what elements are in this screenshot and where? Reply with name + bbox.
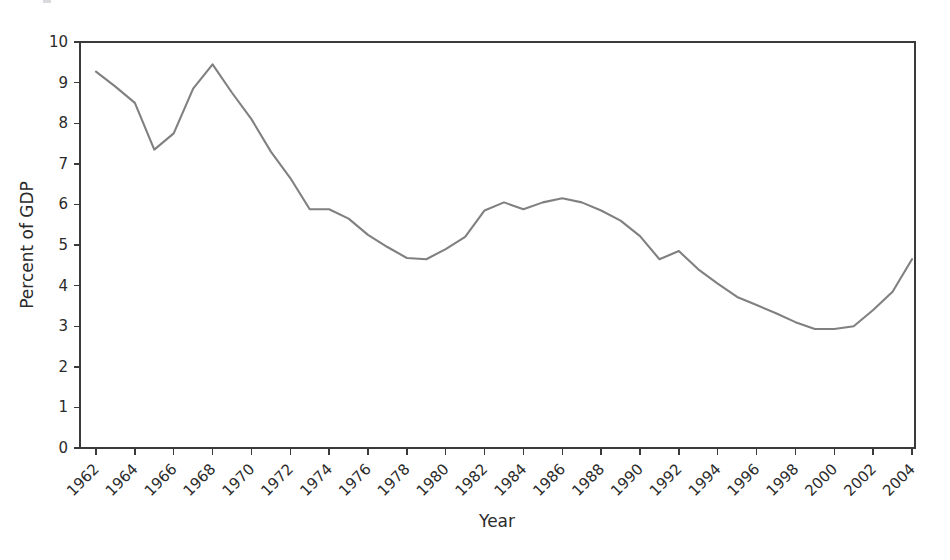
y-tick-label: 6 — [58, 195, 68, 213]
y-tick-label: 10 — [49, 33, 68, 51]
chart-container: 012345678910 196219641966196819701972197… — [0, 0, 950, 560]
x-tick-label: 1992 — [646, 460, 686, 500]
data-series-percent-of-gdp — [96, 64, 912, 329]
x-axis-title: Year — [478, 511, 515, 531]
x-tick-label: 1988 — [568, 460, 608, 500]
x-tick-label: 1966 — [141, 460, 181, 500]
line-chart: 012345678910 196219641966196819701972197… — [0, 0, 950, 560]
plot-frame — [80, 42, 915, 448]
x-tick-label: 1990 — [607, 460, 647, 500]
x-tick-label: 1968 — [180, 460, 220, 500]
x-tick-label: 1976 — [335, 460, 375, 500]
y-tick-label: 2 — [58, 358, 68, 376]
y-axis: 012345678910 — [49, 33, 80, 457]
x-tick-label: 1996 — [724, 460, 764, 500]
x-tick-label: 1964 — [102, 460, 142, 500]
y-tick-label: 5 — [58, 236, 68, 254]
y-tick-label: 7 — [58, 155, 68, 173]
y-tick-label: 0 — [58, 439, 68, 457]
plot-box — [80, 42, 915, 448]
x-tick-label: 1986 — [529, 460, 569, 500]
x-tick-label: 2000 — [801, 460, 841, 500]
x-axis: 1962196419661968197019721974197619781980… — [63, 448, 919, 500]
x-tick-label: 2002 — [840, 460, 880, 500]
x-tick-label: 1974 — [296, 460, 336, 500]
x-tick-label: 1984 — [491, 460, 531, 500]
x-tick-label: 1994 — [685, 460, 725, 500]
x-tick-label: 1962 — [63, 460, 103, 500]
y-tick-label: 3 — [58, 317, 68, 335]
x-tick-label: 2004 — [879, 460, 919, 500]
x-tick-label: 1982 — [452, 460, 492, 500]
y-tick-label: 1 — [58, 398, 68, 416]
x-tick-label: 1980 — [413, 460, 453, 500]
x-tick-label: 1998 — [763, 460, 803, 500]
x-tick-label: 1970 — [219, 460, 259, 500]
y-tick-label: 9 — [58, 74, 68, 92]
y-tick-label: 8 — [58, 114, 68, 132]
x-tick-label: 1972 — [257, 460, 297, 500]
top-crop-artifact — [43, 0, 51, 3]
y-tick-label: 4 — [58, 277, 68, 295]
y-axis-title: Percent of GDP — [17, 181, 37, 309]
x-tick-label: 1978 — [374, 460, 414, 500]
